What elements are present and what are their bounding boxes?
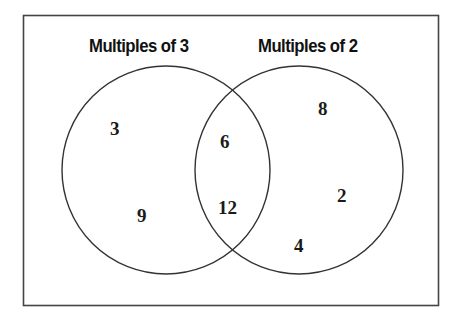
- venn-diagram: [0, 0, 467, 316]
- element-8: 8: [318, 98, 328, 120]
- diagram-frame: [24, 16, 439, 306]
- set-title-multiples-of-3: Multiples of 3: [89, 35, 188, 57]
- element-3: 3: [110, 118, 120, 140]
- element-9: 9: [137, 205, 147, 227]
- element-12: 12: [218, 197, 237, 219]
- set-title-multiples-of-2: Multiples of 2: [258, 35, 357, 57]
- element-4: 4: [294, 235, 304, 257]
- element-6: 6: [220, 131, 230, 153]
- element-2: 2: [337, 185, 347, 207]
